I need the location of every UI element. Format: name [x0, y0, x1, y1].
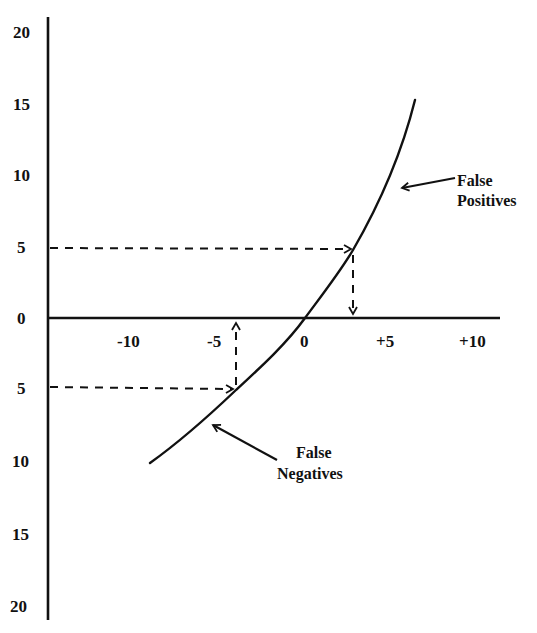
y-tick-label: 20: [13, 23, 30, 42]
false-negatives-arrow: [213, 425, 277, 460]
diagram-canvas: 20 15 10 5 0 5 10 15 20 -10 -5 0 +5 +10: [0, 0, 537, 633]
error-curve-diagram: 20 15 10 5 0 5 10 15 20 -10 -5 0 +5 +10: [0, 0, 537, 633]
false-positives-line-1: False: [457, 172, 493, 189]
response-curve: [150, 100, 415, 463]
false-negatives-line-2: Negatives: [277, 465, 343, 483]
y-tick-label: 10: [12, 452, 29, 471]
y-tick-label: 10: [13, 166, 30, 185]
false-negative-horizontal-dash: [50, 387, 233, 389]
y-tick-label: 15: [13, 95, 30, 114]
x-tick-label: -5: [207, 332, 221, 351]
x-tick-label: +10: [459, 332, 486, 351]
y-tick-label: 0: [17, 309, 26, 328]
false-positives-line-2: Positives: [457, 192, 517, 209]
x-tick-label: 0: [300, 332, 309, 351]
x-tick-label: -10: [117, 332, 140, 351]
false-negatives-line-1: False: [296, 444, 332, 461]
false-negatives-label: False Negatives: [277, 444, 343, 483]
false-positives-arrow: [402, 178, 455, 188]
x-tick-labels: -10 -5 0 +5 +10: [117, 332, 486, 351]
y-tick-label: 20: [10, 597, 27, 616]
y-tick-label: 5: [17, 238, 26, 257]
x-tick-label: +5: [376, 332, 394, 351]
y-tick-label: 5: [17, 379, 26, 398]
y-tick-labels: 20 15 10 5 0 5 10 15 20: [10, 23, 30, 616]
false-positive-horizontal-dash: [50, 248, 351, 249]
false-positives-label: False Positives: [457, 172, 517, 209]
y-tick-label: 15: [12, 525, 29, 544]
